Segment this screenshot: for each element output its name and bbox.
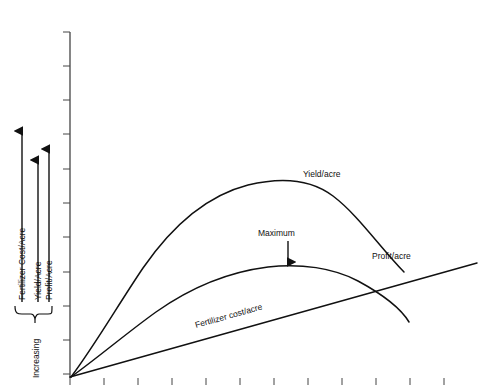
- series-label-profit-per-acre: Profit/acre: [372, 251, 411, 261]
- maximum-annotation: Maximum: [258, 228, 295, 262]
- series-label-yield-per-acre: Yield/acre: [303, 169, 341, 179]
- increasing-label: Increasing: [31, 339, 41, 378]
- y-axis-ticks: [63, 32, 70, 374]
- series-fertilizer-cost-per-acre-line: [70, 263, 477, 377]
- maximum-label: Maximum: [258, 228, 295, 238]
- increasing-bracket: Increasing: [15, 306, 52, 378]
- y-measure-label-yield: Yield/Acre: [33, 261, 43, 300]
- fertilizer-response-chart: Fertilizer Cost/Acre Yield/Acre Profit/A…: [0, 0, 485, 386]
- figure-root: Fertilizer Cost/Acre Yield/Acre Profit/A…: [0, 0, 485, 386]
- series-profit-per-acre-curve: [71, 266, 409, 377]
- x-axis: [70, 378, 444, 385]
- brace-icon: [15, 306, 52, 319]
- x-axis-ticks: [70, 378, 444, 385]
- page-running-header: [0, 0, 485, 10]
- curves: [70, 180, 477, 377]
- y-measure-label-fertilizer-cost: Fertilizer Cost/Acre: [17, 227, 27, 300]
- y-measure-label-profit: Profit/Acre: [44, 260, 54, 300]
- y-axis: [63, 32, 70, 378]
